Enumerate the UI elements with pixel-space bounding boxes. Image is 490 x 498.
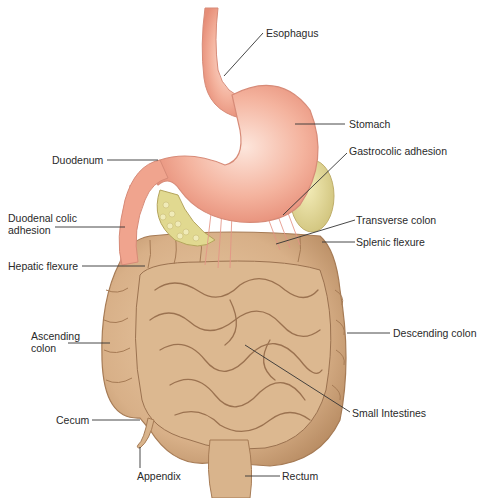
- label-esophagus: Esophagus: [266, 27, 319, 39]
- small-intestine: [135, 261, 330, 449]
- label-stomach: Stomach: [349, 118, 390, 130]
- label-descending-colon: Descending colon: [393, 327, 476, 339]
- label-cecum: Cecum: [56, 414, 89, 426]
- label-rectum: Rectum: [282, 470, 318, 482]
- label-gastrocolic-adhesion: Gastrocolic adhesion: [349, 145, 447, 157]
- label-appendix: Appendix: [137, 470, 181, 482]
- rectum: [208, 440, 251, 498]
- anatomy-diagram: Esophagus Stomach Duodenum Gastrocolic a…: [0, 0, 490, 498]
- label-transverse-colon: Transverse colon: [356, 214, 436, 226]
- label-splenic-flexure: Splenic flexure: [356, 236, 425, 248]
- label-duodenal-colic-adhesion-line1: Duodenal colic: [8, 212, 77, 224]
- label-ascending-colon-line1: Ascending: [31, 330, 80, 342]
- label-hepatic-flexure: Hepatic flexure: [8, 260, 78, 272]
- label-duodenal-colic-adhesion-line2: adhesion: [8, 224, 51, 236]
- label-small-intestines: Small Intestines: [352, 407, 426, 419]
- label-duodenum: Duodenum: [52, 154, 103, 166]
- label-ascending-colon-line2: colon: [31, 342, 56, 354]
